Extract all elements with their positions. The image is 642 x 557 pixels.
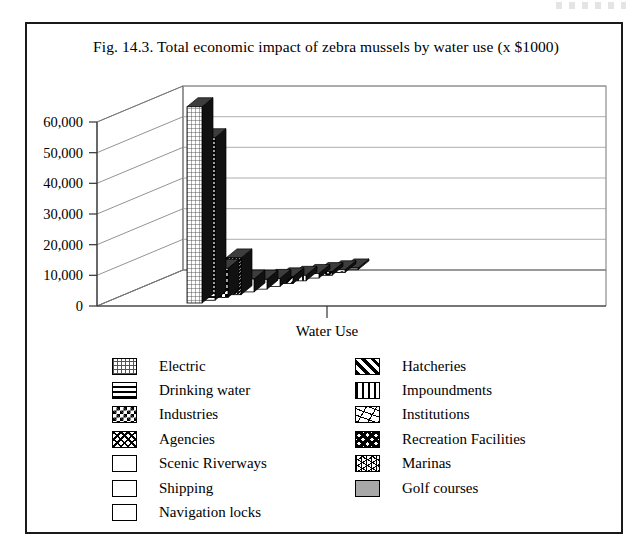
legend-label: Electric xyxy=(159,359,206,374)
y-tick-10000: 10,000 xyxy=(43,267,83,283)
woven-crosshatch-icon xyxy=(112,431,137,448)
legend-item-recreation-facilities[interactable]: Recreation Facilities xyxy=(355,427,526,451)
checkerboard-icon xyxy=(112,406,137,423)
grid-mesh-icon xyxy=(112,358,137,375)
legend-item-institutions[interactable]: Institutions xyxy=(355,403,526,427)
x-axis xyxy=(97,306,606,318)
legend-label: Marinas xyxy=(402,456,451,471)
solid-gray-icon xyxy=(355,480,380,497)
blank-white-icon xyxy=(112,504,137,521)
y-tick-60000: 60,000 xyxy=(43,114,83,130)
scan-artifact xyxy=(556,2,626,9)
legend-item-marinas[interactable]: Marinas xyxy=(355,452,526,476)
legend-item-shipping[interactable]: Shipping xyxy=(112,476,267,500)
legend-label: Recreation Facilities xyxy=(402,432,526,447)
legend-label: Agencies xyxy=(159,432,215,447)
legend-item-industries[interactable]: Industries xyxy=(112,403,267,427)
legend-item-impoundments[interactable]: Impoundments xyxy=(355,378,526,402)
y-axis xyxy=(89,122,97,306)
legend-item-golf-courses[interactable]: Golf courses xyxy=(355,476,526,500)
chart-depth-lines xyxy=(97,86,183,306)
legend-label: Navigation locks xyxy=(159,505,261,520)
legend-item-agencies[interactable]: Agencies xyxy=(112,427,267,451)
figure-caption: Fig. 14.3. Total economic impact of zebr… xyxy=(27,38,625,56)
legend-column-right: Hatcheries Impoundments Institutions Rec… xyxy=(355,354,526,500)
legend-label: Institutions xyxy=(402,407,470,422)
web-mesh-icon xyxy=(355,455,380,472)
legend-label: Shipping xyxy=(159,481,213,496)
y-tick-30000: 30,000 xyxy=(43,206,83,222)
x-axis-title: Water Use xyxy=(296,323,359,338)
bar-electric xyxy=(187,98,213,303)
chart-svg: 0 10,000 20,000 30,000 40,000 50,000 60,… xyxy=(27,60,625,338)
legend-label: Impoundments xyxy=(402,383,492,398)
diagonal-stripes-icon xyxy=(355,358,380,375)
legend-column-left: Electric Drinking water Industries Agenc… xyxy=(112,354,267,525)
legend-item-hatcheries[interactable]: Hatcheries xyxy=(355,354,526,378)
chart-bars xyxy=(187,98,369,303)
legend-item-navigation-locks[interactable]: Navigation locks xyxy=(112,500,267,524)
blank-white-icon xyxy=(112,455,137,472)
legend-item-drinking-water[interactable]: Drinking water xyxy=(112,378,267,402)
bold-zigzag-icon xyxy=(355,431,380,448)
blank-white-icon xyxy=(112,480,137,497)
legend-label: Scenic Riverways xyxy=(159,456,267,471)
legend-label: Golf courses xyxy=(402,481,478,496)
legend-label: Hatcheries xyxy=(402,359,466,374)
chart-gridlines xyxy=(183,86,606,270)
chart-3d-walls xyxy=(97,86,606,306)
legend-label: Industries xyxy=(159,407,218,422)
y-tick-50000: 50,000 xyxy=(43,145,83,161)
squiggle-icon xyxy=(355,406,380,423)
y-tick-20000: 20,000 xyxy=(43,237,83,253)
horizontal-lines-icon xyxy=(112,382,137,399)
legend-label: Drinking water xyxy=(159,383,250,398)
chart-legend: Electric Drinking water Industries Agenc… xyxy=(27,354,625,524)
y-tick-0: 0 xyxy=(76,298,83,314)
legend-item-electric[interactable]: Electric xyxy=(112,354,267,378)
y-axis-tick-labels: 0 10,000 20,000 30,000 40,000 50,000 60,… xyxy=(43,114,83,314)
chart-plot-area: 0 10,000 20,000 30,000 40,000 50,000 60,… xyxy=(27,60,625,338)
y-tick-40000: 40,000 xyxy=(43,175,83,191)
figure-frame: Fig. 14.3. Total economic impact of zebr… xyxy=(25,22,623,534)
legend-item-scenic-riverways[interactable]: Scenic Riverways xyxy=(112,452,267,476)
vertical-bars-icon xyxy=(355,382,380,399)
